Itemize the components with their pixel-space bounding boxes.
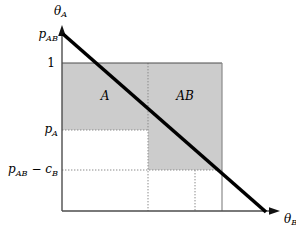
y-tick-p-ab-cb-sub: AB <box>16 168 28 178</box>
y-tick-label-one: 1 <box>47 57 55 69</box>
y-tick-p-ab-cb-sub2: B <box>52 168 58 178</box>
y-tick-p-a-base: p <box>44 122 52 136</box>
region-label-ab: AB <box>176 90 193 102</box>
y-tick-label-p-ab-minus-cb: pAB − cB <box>8 163 58 176</box>
y-axis-label-sub: A <box>61 9 67 19</box>
y-tick-p-ab-cb-base2: c <box>45 162 52 176</box>
x-axis-label: θB <box>284 213 296 226</box>
y-axis-label: θA <box>54 5 67 18</box>
y-tick-p-ab-base: p <box>38 27 46 41</box>
y-tick-p-a-sub: A <box>52 128 58 138</box>
y-tick-p-ab-cb-operator: − <box>28 162 46 176</box>
y-tick-p-ab-sub: AB <box>46 33 58 43</box>
y-tick-label-p-a: pA <box>44 123 58 136</box>
y-tick-label-p-ab: pAB <box>38 28 58 41</box>
x-axis-label-sub: B <box>291 217 296 227</box>
y-tick-p-ab-cb-base: p <box>8 162 16 176</box>
economics-diagram: pAB 1 pA pAB − cB A AB θA θB <box>0 0 296 235</box>
x-axis-arrowhead <box>269 207 280 215</box>
y-tick-one-base: 1 <box>47 56 55 70</box>
region-label-a: A <box>101 90 110 102</box>
